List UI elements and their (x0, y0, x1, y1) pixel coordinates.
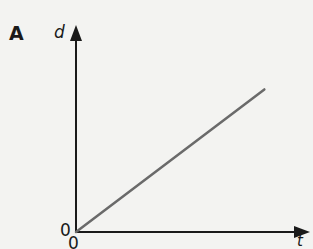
chart-canvas (0, 0, 313, 249)
data-line (76, 89, 264, 232)
y-axis-arrow-icon (70, 25, 82, 41)
x-axis-arrow-icon (294, 226, 310, 238)
